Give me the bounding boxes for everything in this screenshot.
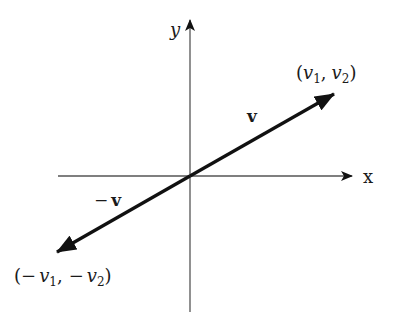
vector-v-label: v [246,106,258,126]
vector-neg-v-label: −v [94,190,122,210]
x-axis-label: x [363,166,373,187]
vector-diagram: y x v −v (v1,v2) (−v1,−v2) [0,0,393,329]
vector-v [190,94,334,176]
y-axis-label: y [169,19,181,40]
minus-sign: − [94,190,108,210]
vector-neg-v [57,176,190,252]
vector-neg-v-tip-label: (−v1,−v2) [14,265,112,289]
vector-v-tip-label: (v1,v2) [296,62,356,86]
